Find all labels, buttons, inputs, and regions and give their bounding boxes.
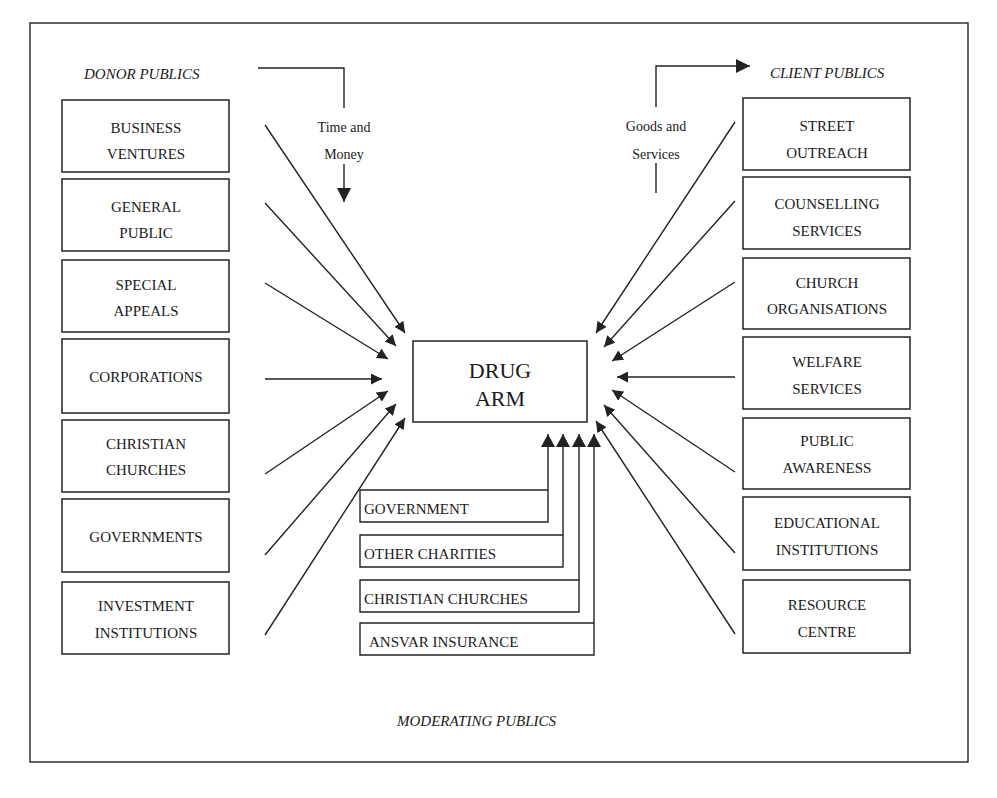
arrow-line xyxy=(612,282,735,361)
donor-label: GENERAL xyxy=(111,199,181,215)
client-label: OUTREACH xyxy=(786,145,868,161)
donor-publics-list: BUSINESS VENTURES GENERAL PUBLIC SPECIAL… xyxy=(62,100,229,654)
client-box-public-awareness: PUBLIC AWARENESS xyxy=(743,418,910,489)
client-label: WELFARE xyxy=(792,354,862,370)
arrow-line xyxy=(265,203,396,346)
goods-and-services-flow: Goods and Services xyxy=(626,66,750,193)
donor-label: PUBLIC xyxy=(119,225,172,241)
moderating-publics-list: GOVERNMENT OTHER CHARITIES CHRISTIAN CHU… xyxy=(360,434,594,655)
up-arrow-icon xyxy=(587,434,601,447)
moderating-label: ANSVAR INSURANCE xyxy=(369,634,518,650)
client-publics-heading: CLIENT PUBLICS xyxy=(770,65,885,81)
client-label: CHURCH xyxy=(796,275,859,291)
client-label: ORGANISATIONS xyxy=(767,301,887,317)
arrow-line xyxy=(265,283,388,359)
moderating-arrowheads xyxy=(541,434,601,447)
drug-arm-publics-diagram: DONOR PUBLICS CLIENT PUBLICS MODERATING … xyxy=(0,0,997,798)
client-label: CENTRE xyxy=(798,624,856,640)
moderating-label: CHRISTIAN CHURCHES xyxy=(364,591,528,607)
client-publics-list: STREET OUTREACH COUNSELLING SERVICES CHU… xyxy=(743,98,910,653)
donor-label: CHRISTIAN xyxy=(106,436,186,452)
arrow-line xyxy=(265,391,388,474)
donor-label: SPECIAL xyxy=(116,277,177,293)
client-arrows xyxy=(596,122,735,634)
drug-arm-node: DRUG ARM xyxy=(413,341,587,422)
donor-label: INVESTMENT xyxy=(98,598,194,614)
donor-label: APPEALS xyxy=(113,303,178,319)
moderating-publics-heading: MODERATING PUBLICS xyxy=(396,713,557,729)
donor-box-special-appeals: SPECIAL APPEALS xyxy=(62,260,229,332)
time-and-money-label-line2: Money xyxy=(324,147,364,162)
client-box-welfare-services: WELFARE SERVICES xyxy=(743,337,910,409)
client-box-counselling-services: COUNSELLING SERVICES xyxy=(743,177,910,249)
moderating-box-ansvar-insurance: ANSVAR INSURANCE xyxy=(360,434,594,655)
donor-box-business-ventures: BUSINESS VENTURES xyxy=(62,100,229,172)
client-box-resource-centre: RESOURCE CENTRE xyxy=(743,580,910,653)
client-label: COUNSELLING xyxy=(775,196,880,212)
arrow-line xyxy=(596,421,735,634)
moderating-label: GOVERNMENT xyxy=(364,501,469,517)
client-label: INSTITUTIONS xyxy=(776,542,879,558)
client-label: AWARENESS xyxy=(783,460,872,476)
time-and-money-label-line1: Time and xyxy=(318,120,371,135)
moderating-box-christian-churches: CHRISTIAN CHURCHES xyxy=(360,434,579,612)
donor-box-corporations: CORPORATIONS xyxy=(62,339,229,413)
moderating-label: OTHER CHARITIES xyxy=(364,546,496,562)
client-label: STREET xyxy=(800,118,855,134)
time-money-bracket-line xyxy=(258,68,344,108)
client-label: SERVICES xyxy=(792,381,862,397)
goods-and-services-label-line1: Goods and xyxy=(626,119,686,134)
client-box-educational-institutions: EDUCATIONAL INSTITUTIONS xyxy=(743,497,910,570)
donor-box-christian-churches: CHRISTIAN CHURCHES xyxy=(62,420,229,492)
arrow-line xyxy=(604,405,735,553)
donor-label: INSTITUTIONS xyxy=(95,625,198,641)
donor-label: CORPORATIONS xyxy=(89,369,202,385)
donor-label: BUSINESS xyxy=(111,120,182,136)
up-arrow-icon xyxy=(572,434,586,447)
client-box-church-organisations: CHURCH ORGANISATIONS xyxy=(743,258,910,329)
client-label: SERVICES xyxy=(792,223,862,239)
drug-arm-label-line1: DRUG xyxy=(469,358,531,383)
arrow-line xyxy=(604,201,735,347)
right-arrow-icon xyxy=(656,66,750,107)
donor-box-general-public: GENERAL PUBLIC xyxy=(62,179,229,251)
donor-publics-heading: DONOR PUBLICS xyxy=(83,66,200,82)
client-label: EDUCATIONAL xyxy=(774,515,880,531)
drug-arm-label-line2: ARM xyxy=(475,386,525,411)
donor-label: VENTURES xyxy=(107,146,185,162)
up-arrow-icon xyxy=(556,434,570,447)
arrow-line xyxy=(612,390,735,472)
moderating-box-government: GOVERNMENT xyxy=(360,434,548,522)
client-label: RESOURCE xyxy=(788,597,866,613)
donor-box-investment-institutions: INVESTMENT INSTITUTIONS xyxy=(62,582,229,654)
up-arrow-icon xyxy=(541,434,555,447)
client-label: PUBLIC xyxy=(800,433,853,449)
donor-label: GOVERNMENTS xyxy=(89,529,202,545)
time-and-money-flow: Time and Money xyxy=(258,68,370,202)
donor-box-governments: GOVERNMENTS xyxy=(62,499,229,572)
client-box-street-outreach: STREET OUTREACH xyxy=(743,98,910,170)
goods-and-services-label-line2: Services xyxy=(632,147,679,162)
donor-label: CHURCHES xyxy=(106,462,186,478)
